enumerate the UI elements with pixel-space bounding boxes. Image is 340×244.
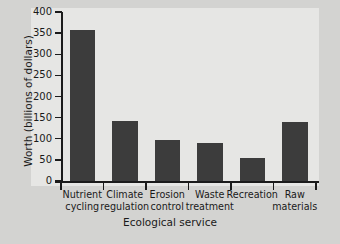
x-category-label: Rawmaterials	[264, 189, 325, 212]
bar	[70, 30, 96, 181]
y-tick-label: 400	[26, 7, 52, 17]
y-tick-label: 350	[26, 28, 52, 38]
bar-chart-figure: Worth (billions of dollars) 050100150200…	[0, 0, 340, 244]
bar-series	[61, 12, 316, 181]
bar	[282, 122, 308, 181]
y-tick-label: 250	[26, 70, 52, 80]
y-tick-label: 150	[26, 113, 52, 123]
bar	[197, 143, 223, 181]
y-tick-label: 50	[26, 155, 52, 165]
y-tick-label: 300	[26, 49, 52, 59]
bar	[240, 158, 266, 181]
x-category-label-line: Raw	[264, 189, 325, 201]
x-axis-title: Ecological service	[0, 216, 340, 228]
bar	[155, 140, 181, 181]
y-tick-label: 100	[26, 134, 52, 144]
y-tick-label: 0	[26, 176, 52, 186]
y-tick-label: 200	[26, 92, 52, 102]
x-category-label-line: treatment	[179, 201, 240, 213]
x-category-label-line: materials	[264, 201, 325, 213]
bar	[112, 121, 138, 181]
